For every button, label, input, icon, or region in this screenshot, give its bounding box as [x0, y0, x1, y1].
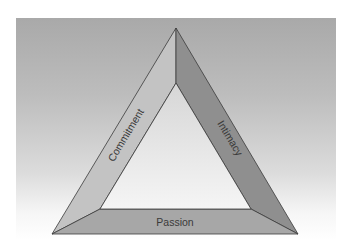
diagram-canvas: Commitment Intimacy Passion	[0, 0, 344, 251]
passion-label: Passion	[156, 216, 194, 228]
love-triangle-diagram: Commitment Intimacy Passion	[0, 0, 344, 251]
